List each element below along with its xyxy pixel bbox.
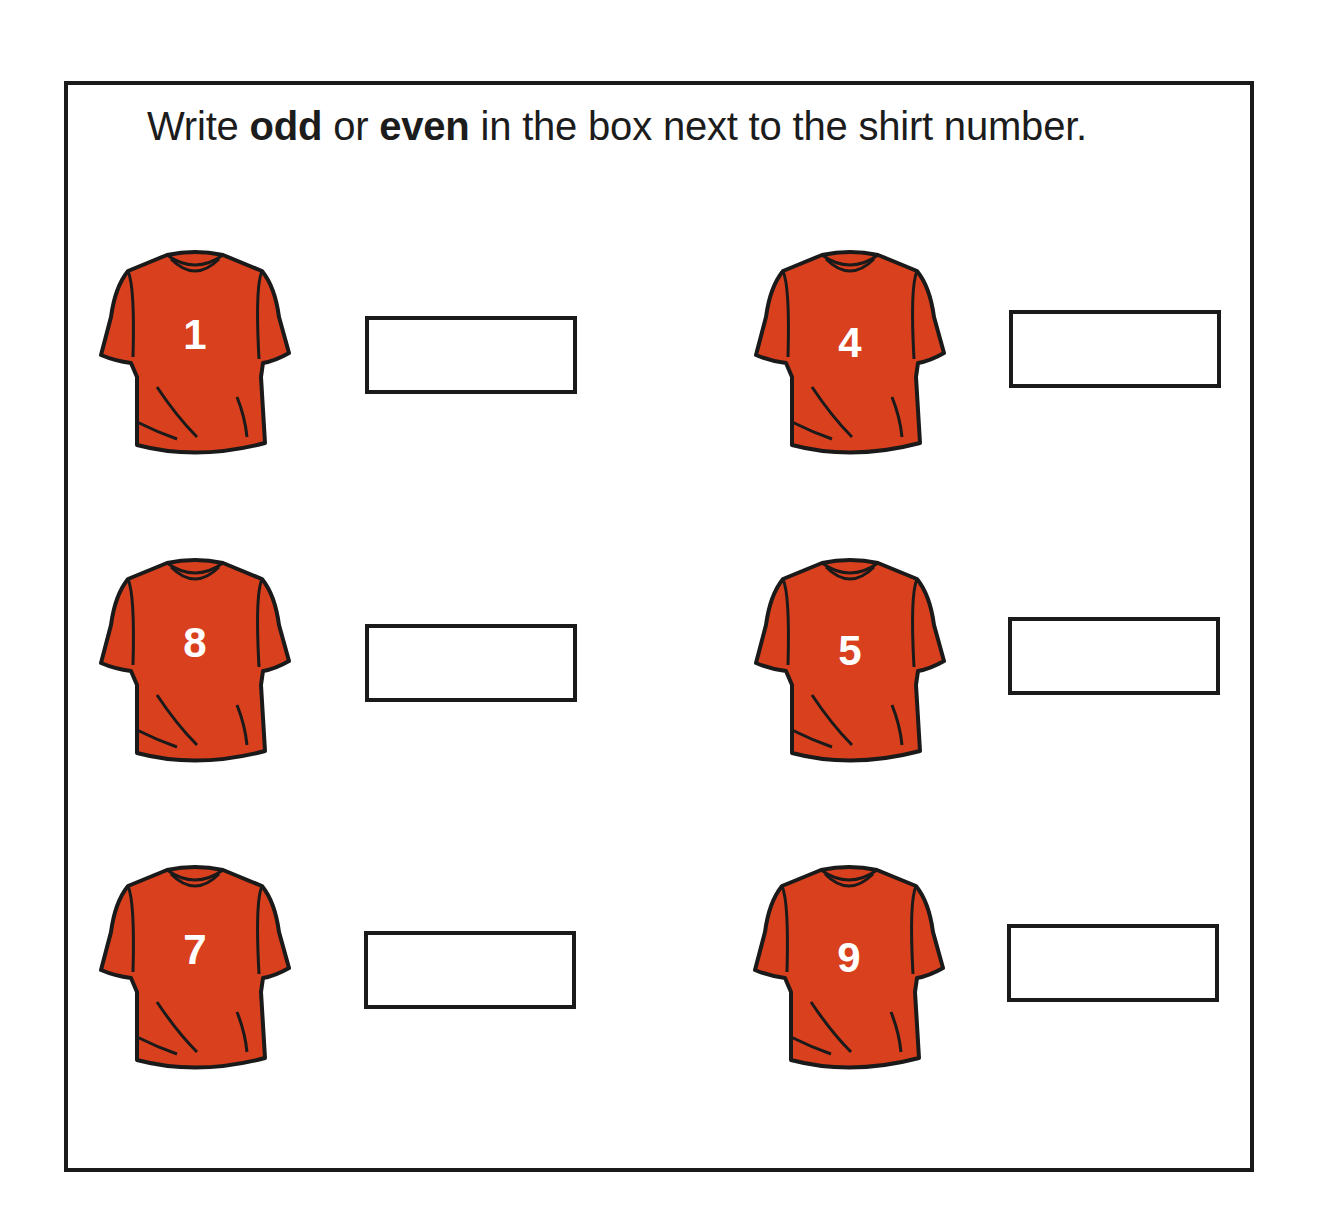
answer-input-8[interactable] xyxy=(369,628,573,698)
shirt-7: 7 xyxy=(97,862,293,1072)
answer-box-8[interactable] xyxy=(365,624,577,702)
shirt-number: 4 xyxy=(752,319,948,367)
instruction-suffix: in the box next to the shirt number. xyxy=(470,104,1087,148)
instruction-middle: or xyxy=(322,104,379,148)
shirt-1: 1 xyxy=(97,247,293,457)
shirt-4: 4 xyxy=(752,247,948,457)
answer-box-9[interactable] xyxy=(1007,924,1219,1002)
answer-input-9[interactable] xyxy=(1011,928,1215,998)
answer-input-7[interactable] xyxy=(368,935,572,1005)
shirt-number: 9 xyxy=(751,934,947,982)
answer-input-1[interactable] xyxy=(369,320,573,390)
shirt-number: 7 xyxy=(97,926,293,974)
answer-input-4[interactable] xyxy=(1013,314,1217,384)
shirt-9: 9 xyxy=(751,862,947,1072)
shirt-5: 5 xyxy=(752,555,948,765)
instruction-prefix: Write xyxy=(147,104,250,148)
shirt-number: 8 xyxy=(97,619,293,667)
instruction-odd: odd xyxy=(250,104,323,148)
shirt-8: 8 xyxy=(97,555,293,765)
shirt-number: 1 xyxy=(97,311,293,359)
answer-input-5[interactable] xyxy=(1012,621,1216,691)
answer-box-4[interactable] xyxy=(1009,310,1221,388)
instruction-text: Write odd or even in the box next to the… xyxy=(147,104,1087,149)
shirt-number: 5 xyxy=(752,627,948,675)
instruction-even: even xyxy=(379,104,469,148)
answer-box-5[interactable] xyxy=(1008,617,1220,695)
answer-box-1[interactable] xyxy=(365,316,577,394)
answer-box-7[interactable] xyxy=(364,931,576,1009)
